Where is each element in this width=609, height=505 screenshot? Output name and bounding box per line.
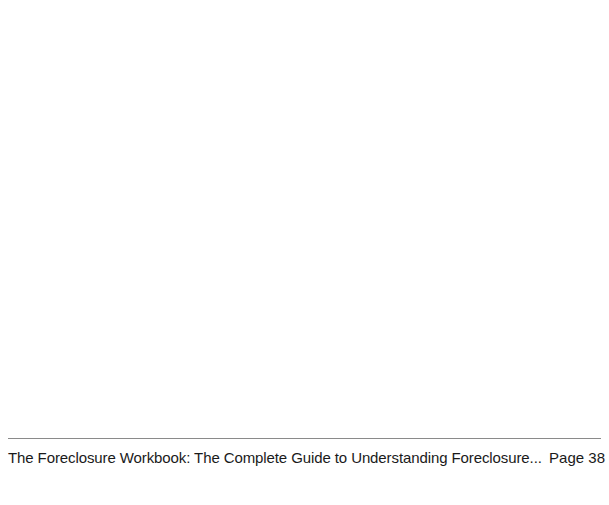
page-body	[0, 0, 609, 435]
page-footer: The Foreclosure Workbook: The Complete G…	[8, 449, 605, 467]
footer-divider	[8, 438, 601, 439]
footer-book-title: The Foreclosure Workbook: The Complete G…	[8, 449, 542, 467]
footer-page-number: Page 38	[549, 449, 605, 467]
